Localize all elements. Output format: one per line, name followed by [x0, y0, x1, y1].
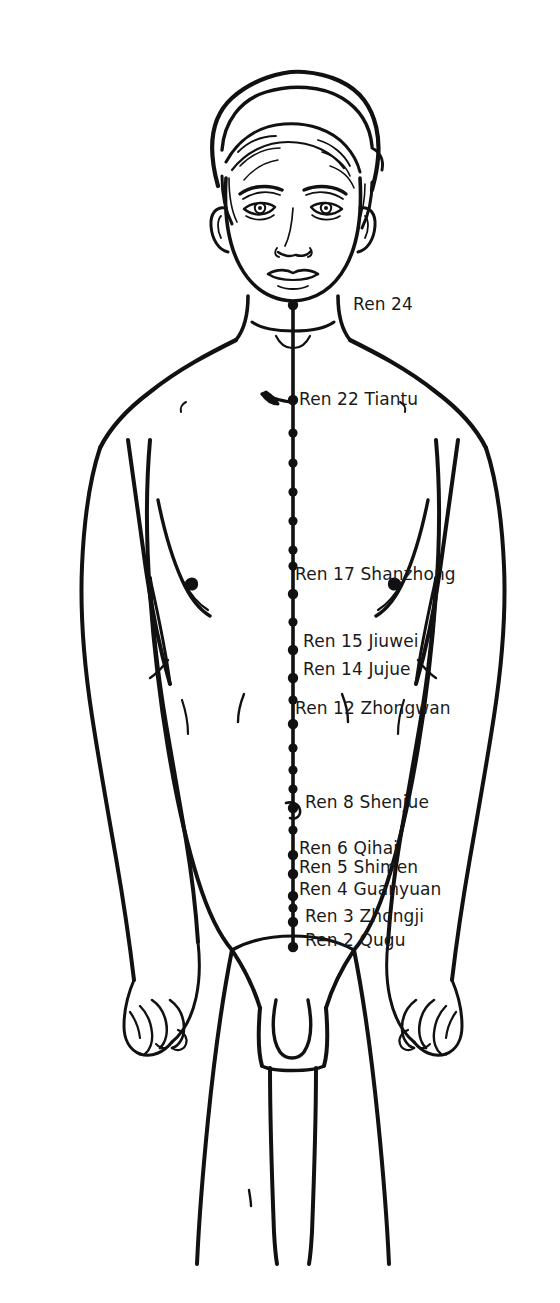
knee-mark-left	[249, 1190, 251, 1206]
groin-right	[326, 950, 354, 1008]
hand-left	[124, 942, 199, 1055]
acupoint-dot-ren24[interactable]	[288, 300, 298, 310]
acupoint-dot-ren2[interactable]	[288, 942, 298, 952]
mouth	[268, 270, 318, 289]
genital-outline	[273, 1000, 310, 1058]
point-label-ren6: Ren 6 Qihai	[299, 840, 398, 857]
meridian-dot-12	[288, 903, 297, 912]
hair-outline	[212, 72, 382, 228]
point-label-ren8: Ren 8 Shenjue	[305, 794, 429, 811]
acupoint-dot-ren8[interactable]	[288, 803, 298, 813]
point-label-ren4: Ren 4 Guanyuan	[299, 881, 441, 898]
acupoint-dot-ren14[interactable]	[288, 673, 298, 683]
point-label-ren22: Ren 22 Tiantu	[299, 391, 418, 408]
acupoint-dot-ren15[interactable]	[288, 645, 298, 655]
point-label-ren3: Ren 3 Zhongji	[305, 908, 424, 925]
point-label-ren24: Ren 24	[353, 296, 413, 313]
acupoint-dot-ren17[interactable]	[288, 589, 298, 599]
point-label-ren15: Ren 15 Jiuwei	[303, 633, 419, 650]
point-label-ren12: Ren 12 Zhongwan	[295, 700, 451, 717]
meridian-dot-10	[288, 784, 297, 793]
acupoint-dot-ren6[interactable]	[288, 850, 298, 860]
acupuncture-chart: Ren 24Ren 22 TiantuRen 17 ShanzhongRen 1…	[0, 0, 560, 1303]
acupoint-dot-ren5[interactable]	[288, 869, 298, 879]
meridian-dot-4	[288, 545, 297, 554]
shoulder-left	[100, 340, 236, 448]
arm-left-outer	[81, 448, 134, 980]
hand-right	[387, 942, 462, 1055]
eyebrows	[240, 187, 346, 199]
point-label-ren17: Ren 17 Shanzhong	[295, 566, 456, 583]
meridian-dot-9	[288, 765, 297, 774]
inner-thigh-right	[324, 1008, 327, 1066]
meridian-dot-6	[288, 617, 297, 626]
acupoint-dot-ren4[interactable]	[288, 891, 298, 901]
leg-left-inner	[270, 1068, 277, 1264]
neck-left	[236, 296, 248, 340]
arm-right-outer	[452, 448, 505, 980]
leg-right-outer	[354, 950, 389, 1264]
point-label-ren2: Ren 2 Qugu	[305, 932, 406, 949]
meridian-dot-8	[288, 743, 297, 752]
nipple-left	[186, 579, 197, 590]
meridian-dot-1	[288, 458, 297, 467]
leader-arrow-ren22	[262, 392, 290, 404]
inner-thigh-left	[259, 1008, 262, 1066]
point-label-ren14: Ren 14 Jujue	[303, 661, 411, 678]
meridian-dot-2	[288, 487, 297, 496]
neck-right	[338, 296, 350, 340]
leg-right-inner	[309, 1068, 316, 1264]
meridian-dot-0	[288, 428, 297, 437]
eye-left	[244, 203, 275, 220]
pectoral-line-right	[376, 500, 428, 616]
meridian-point-dots	[288, 300, 298, 952]
meridian-dot-11	[288, 825, 297, 834]
groin-left	[232, 950, 260, 1008]
acupoint-dot-ren3[interactable]	[288, 917, 298, 927]
nose	[275, 208, 311, 257]
point-label-ren5: Ren 5 Shimen	[299, 859, 418, 876]
leg-left-outer	[197, 950, 232, 1264]
human-figure-line-drawing	[0, 0, 560, 1303]
meridian-dot-3	[288, 516, 297, 525]
eye-right	[311, 203, 342, 220]
flank-line-left	[238, 694, 244, 722]
acupoint-dot-ren22[interactable]	[288, 395, 298, 405]
acupoint-dot-ren12[interactable]	[288, 719, 298, 729]
pectoral-line-left	[158, 500, 210, 616]
